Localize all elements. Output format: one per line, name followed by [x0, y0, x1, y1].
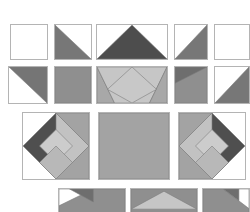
- tile-triangle-right-edge[interactable]: [214, 66, 250, 104]
- tile-peak-triangle-wide-art: [97, 25, 167, 59]
- tile-bottom-peak-centre[interactable]: [130, 188, 198, 212]
- tile-bottom-corner-left-art: [59, 189, 125, 212]
- tile-blank-white-art: [11, 25, 47, 59]
- tile-triangle-right-dark[interactable]: [8, 66, 48, 104]
- tile-corner-triangle-upper-left[interactable]: [174, 66, 208, 104]
- tile-triangle-lower-left[interactable]: [54, 24, 92, 60]
- tile-tangram-large-right-art: [179, 113, 245, 179]
- tile-tangram-diamond-wide[interactable]: [96, 66, 168, 104]
- tile-peak-triangle-wide-shape-0: [97, 25, 167, 59]
- tile-solid-mid-grey[interactable]: [54, 66, 92, 104]
- tile-tangram-large-left[interactable]: [22, 112, 90, 180]
- tile-triangle-upper-right[interactable]: [174, 24, 208, 60]
- tile-solid-mid-grey-shape-0: [55, 67, 91, 103]
- tile-solid-large-centre[interactable]: [98, 112, 170, 180]
- tile-blank-white-right-art: [215, 25, 249, 59]
- tile-triangle-right-edge-art: [215, 67, 249, 103]
- tile-solid-mid-grey-art: [55, 67, 91, 103]
- tile-bottom-corner-left[interactable]: [58, 188, 126, 212]
- tile-blank-white-right[interactable]: [214, 24, 250, 60]
- tile-solid-large-centre-shape-0: [99, 113, 169, 179]
- tile-corner-triangle-upper-left-art: [175, 67, 207, 103]
- tile-triangle-right-dark-art: [9, 67, 47, 103]
- tile-peak-triangle-wide[interactable]: [96, 24, 168, 60]
- tile-blank-white[interactable]: [10, 24, 48, 60]
- tile-triangle-right-edge-shape-0: [215, 67, 249, 103]
- tile-tangram-large-left-art: [23, 113, 89, 179]
- tile-triangle-upper-right-art: [175, 25, 207, 59]
- tile-tangram-large-right[interactable]: [178, 112, 246, 180]
- tile-tangram-diamond-wide-art: [97, 67, 167, 103]
- tile-triangle-lower-left-shape-0: [55, 25, 91, 59]
- tile-triangle-lower-left-art: [55, 25, 91, 59]
- tile-solid-large-centre-art: [99, 113, 169, 179]
- tile-triangle-upper-right-shape-0: [175, 25, 207, 59]
- tile-bottom-peak-centre-art: [131, 189, 197, 212]
- tile-bottom-corner-right[interactable]: [202, 188, 250, 212]
- tangram-tile-gallery: [0, 0, 250, 212]
- tile-triangle-right-dark-shape-0: [9, 67, 47, 103]
- tile-bottom-corner-right-art: [203, 189, 249, 212]
